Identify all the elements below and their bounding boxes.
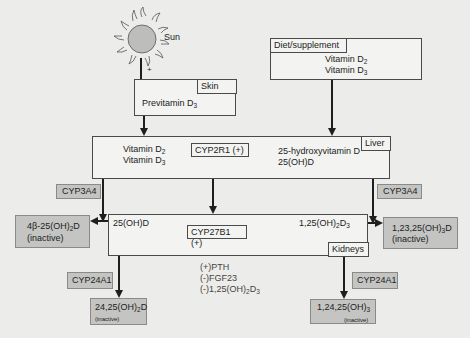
previtamin-d3-label: Previtamin D3 — [142, 98, 197, 109]
diet-tab: Diet/supplement — [270, 38, 347, 53]
right-product-status: (inactive) — [392, 234, 429, 245]
right-inactive-product-box: 1,23,25(OH)3D (inactive) — [383, 217, 458, 249]
liver-product-name: 25-hydroxyvitamin D — [278, 146, 360, 157]
regulator-fgf23: (-)FGF23 — [200, 273, 237, 284]
right-cyp3a4-label: CYP3A4 — [377, 184, 422, 199]
skin-tab: Skin — [197, 79, 237, 94]
liver-box: Liver Vitamin D2 Vitamin D3 CYP2R1 (+) 2… — [92, 136, 390, 179]
uv-plus-sign: + — [147, 64, 152, 75]
liver-vitamin-d2: Vitamin D2 — [123, 144, 165, 155]
liver-vitamin-d3: Vitamin D3 — [123, 155, 165, 166]
bottom-left-product-name: 24,25(OH)2D — [95, 302, 147, 313]
kidneys-box: 25(OH)D CYP27B1 (+) 1,25(OH)2D3 Kidneys — [108, 214, 368, 256]
regulator-pth: (+)PTH — [200, 262, 229, 273]
left-product-status: (inactive) — [27, 233, 64, 244]
bottom-left-inactive-product-box: 24,25(OH)2D (inactive) — [90, 298, 147, 325]
bottom-right-product-status: (inactive) — [344, 315, 368, 326]
liver-tab: Liver — [361, 136, 391, 151]
left-inactive-product-box: 4β-25(OH)2D (inactive) — [15, 215, 90, 248]
diet-vitamin-d3: Vitamin D3 — [325, 65, 367, 76]
diet-vitamin-d2: Vitamin D2 — [325, 54, 367, 65]
bottom-right-product-name: 1,24,25(OH)3 — [317, 302, 370, 313]
kidney-product: 1,25(OH)2D3 — [299, 218, 350, 229]
skin-box: Skin Previtamin D3 — [134, 79, 236, 116]
bottom-left-product-status: (inactive) — [95, 314, 119, 325]
right-product-name: 1,23,25(OH)3D — [392, 223, 452, 234]
liver-product-abbrev: 25(OH)D — [278, 157, 314, 168]
left-cyp3a4-label: CYP3A4 — [56, 184, 101, 199]
bottom-right-inactive-product-box: 1,24,25(OH)3 (inactive) — [310, 299, 376, 324]
left-product-name: 4β-25(OH)2D — [27, 221, 80, 232]
bottom-right-cyp24a1-label: CYP24A1 — [352, 272, 398, 289]
cyp27b1-enzyme: CYP27B1 (+) — [187, 225, 247, 239]
cyp2r1-enzyme: CYP2R1 (+) — [191, 143, 249, 157]
regulator-calcitriol: (-)1,25(OH)2D3 — [200, 284, 260, 295]
sun-label: Sun — [164, 32, 180, 43]
kidney-input: 25(OH)D — [113, 218, 149, 229]
bottom-left-cyp24a1-label: CYP24A1 — [67, 272, 113, 289]
sun-icon — [114, 7, 169, 66]
diet-supplement-box: Diet/supplement Vitamin D2 Vitamin D3 — [270, 38, 422, 80]
kidneys-tab: Kidneys — [328, 242, 369, 257]
